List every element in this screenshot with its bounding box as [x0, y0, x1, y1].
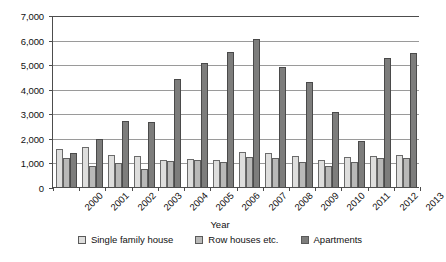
bar	[403, 158, 410, 187]
legend-item[interactable]: Row houses etc.	[195, 234, 278, 245]
bar	[167, 161, 174, 187]
x-tick-label: 2001	[109, 190, 132, 213]
bar	[325, 166, 332, 187]
x-tick-label: 2013	[423, 190, 446, 213]
bar	[220, 162, 227, 187]
bar	[89, 166, 96, 187]
bar-group	[263, 16, 289, 187]
bar	[141, 169, 148, 187]
legend-label: Apartments	[314, 234, 363, 245]
bar-group	[53, 16, 79, 187]
legend-swatch-icon	[301, 236, 309, 244]
y-tick-label: 4,000	[21, 84, 44, 95]
bar	[332, 112, 339, 187]
bar	[213, 160, 220, 187]
x-tick-label: 2009	[318, 190, 341, 213]
x-tick-label: 2000	[82, 190, 105, 213]
bar	[187, 159, 194, 187]
bars-layer	[53, 16, 419, 187]
bar-group	[289, 16, 315, 187]
bar-group	[132, 16, 158, 187]
y-tick-label: 7,000	[21, 11, 44, 22]
x-tick-label: 2002	[135, 190, 158, 213]
bar	[358, 141, 365, 187]
bar-group	[394, 16, 420, 187]
bar	[410, 53, 417, 187]
bar	[279, 67, 286, 187]
bar-group	[184, 16, 210, 187]
bar	[122, 121, 129, 187]
bar	[265, 153, 272, 187]
y-tick-label: 6,000	[21, 35, 44, 46]
chart-legend: Single family houseRow houses etc.Apartm…	[0, 234, 440, 245]
x-tick-mark	[420, 187, 421, 191]
bar	[227, 52, 234, 187]
bar	[56, 149, 63, 187]
bar	[253, 39, 260, 187]
bar-group	[79, 16, 105, 187]
x-tick-label: 2007	[266, 190, 289, 213]
y-tick-label: 1,000	[21, 158, 44, 169]
legend-item[interactable]: Single family house	[78, 234, 173, 245]
bar	[396, 155, 403, 187]
bar-group	[368, 16, 394, 187]
bar	[299, 162, 306, 187]
bar	[377, 158, 384, 187]
bar	[134, 156, 141, 187]
bar	[96, 139, 103, 187]
bar-group	[315, 16, 341, 187]
legend-item[interactable]: Apartments	[301, 234, 363, 245]
bar	[384, 58, 391, 187]
bar	[370, 156, 377, 187]
bar	[160, 160, 167, 187]
x-tick-label: 2005	[213, 190, 236, 213]
bar	[344, 157, 351, 187]
bar	[246, 157, 253, 187]
x-tick-label: 2008	[292, 190, 315, 213]
y-tick-label: 3,000	[21, 109, 44, 120]
legend-label: Single family house	[91, 234, 173, 245]
x-tick-label: 2012	[397, 190, 420, 213]
x-tick-label: 2004	[187, 190, 210, 213]
bar	[239, 152, 246, 187]
x-tick-label: 2010	[344, 190, 367, 213]
legend-swatch-icon	[195, 236, 203, 244]
legend-swatch-icon	[78, 236, 86, 244]
bar	[318, 160, 325, 187]
bar-group	[341, 16, 367, 187]
x-axis-labels: 2000200120022003200420052006200720082009…	[52, 188, 419, 222]
bar	[63, 158, 70, 187]
bar	[201, 63, 208, 187]
y-tick-label: 5,000	[21, 60, 44, 71]
bar	[148, 122, 155, 187]
x-axis-title: Year	[0, 219, 440, 230]
plot-area	[52, 16, 419, 188]
bar	[115, 163, 122, 187]
bar	[272, 158, 279, 187]
y-tick-label: 0	[39, 183, 44, 194]
bar	[292, 156, 299, 187]
bar	[174, 79, 181, 187]
bar	[194, 160, 201, 187]
x-tick-label: 2006	[240, 190, 263, 213]
bar	[306, 82, 313, 187]
legend-label: Row houses etc.	[208, 234, 278, 245]
bar-group	[237, 16, 263, 187]
bar	[82, 147, 89, 187]
bar	[70, 153, 77, 187]
y-tick-label: 2,000	[21, 133, 44, 144]
bar-group	[210, 16, 236, 187]
y-axis-labels: 01,0002,0003,0004,0005,0006,0007,000	[0, 16, 48, 188]
bar-group	[158, 16, 184, 187]
bar	[108, 155, 115, 187]
bar-group	[105, 16, 131, 187]
bar	[351, 162, 358, 187]
x-tick-label: 2011	[370, 190, 392, 212]
x-tick-label: 2003	[161, 190, 184, 213]
